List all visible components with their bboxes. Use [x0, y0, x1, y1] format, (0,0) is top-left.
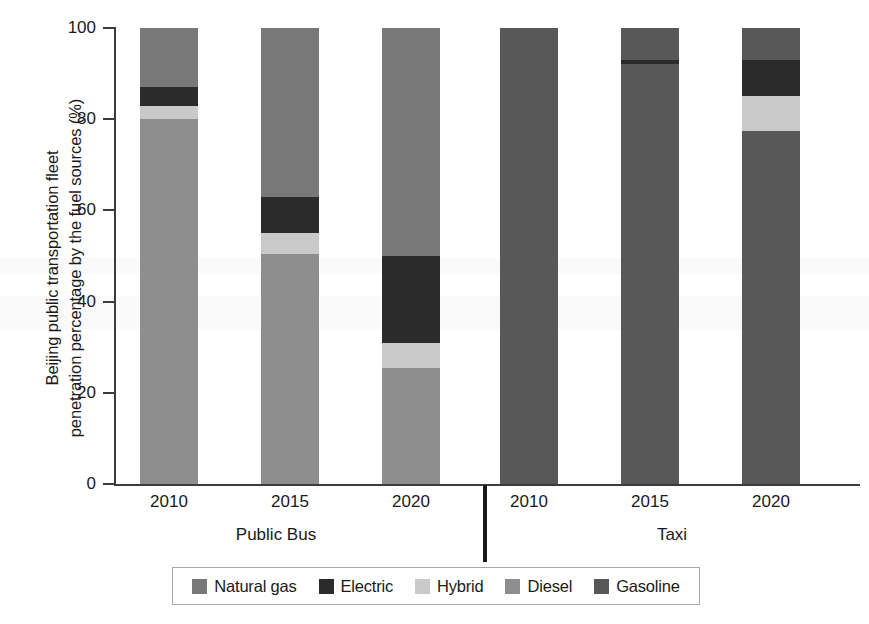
bar-segment-electric — [140, 87, 198, 105]
x-axis-line — [114, 484, 860, 486]
legend: Natural gasElectricHybridDieselGasoline — [172, 567, 700, 605]
y-axis-tick — [103, 392, 114, 394]
plot-area — [114, 28, 859, 484]
bar-segment-gasoline — [621, 28, 679, 484]
legend-label: Hybrid — [437, 577, 483, 596]
y-axis-tick — [103, 27, 114, 29]
group-label-taxi: Taxi — [562, 525, 782, 545]
y-axis-tick-label: 80 — [36, 109, 96, 129]
y-axis-tick — [103, 118, 114, 120]
bar-segment-diesel — [140, 119, 198, 484]
legend-item-natural-gas[interactable]: Natural gas — [192, 577, 296, 596]
y-axis-tick-label: 100 — [36, 18, 96, 38]
bar-segment-diesel — [382, 368, 440, 484]
y-axis-tick-label: 60 — [36, 200, 96, 220]
bar-segment-natural-gas — [261, 28, 319, 197]
bar-segment-electric — [742, 60, 800, 96]
legend-label: Gasoline — [616, 577, 680, 596]
stacked-bar-chart: Beijing public transportation fleet pene… — [0, 0, 869, 624]
legend-swatch-icon — [192, 579, 207, 594]
bar-taxi-2010 — [500, 28, 558, 484]
bar-segment-electric — [382, 256, 440, 343]
bar-public-bus-2020 — [382, 28, 440, 484]
y-axis-tick-label: 40 — [36, 292, 96, 312]
legend-item-hybrid[interactable]: Hybrid — [415, 577, 483, 596]
bar-segment-hybrid — [742, 96, 800, 130]
x-axis-label: 2020 — [711, 492, 831, 512]
y-axis-tick — [103, 301, 114, 303]
bar-segment-gasoline — [742, 28, 800, 60]
x-axis-label: 2010 — [109, 492, 229, 512]
x-axis-label: 2015 — [590, 492, 710, 512]
y-axis-title: Beijing public transportation fleet pene… — [41, 33, 87, 503]
bar-segment-diesel — [261, 254, 319, 484]
legend-swatch-icon — [505, 579, 520, 594]
legend-item-diesel[interactable]: Diesel — [505, 577, 572, 596]
legend-label: Diesel — [527, 577, 572, 596]
bar-segment-hybrid — [382, 343, 440, 368]
x-axis-label: 2010 — [469, 492, 589, 512]
y-axis-tick-label: 20 — [36, 383, 96, 403]
legend-label: Electric — [341, 577, 394, 596]
bar-public-bus-2010 — [140, 28, 198, 484]
legend-swatch-icon — [415, 579, 430, 594]
group-divider — [483, 485, 487, 562]
bar-segment-electric — [621, 60, 679, 65]
bar-segment-gasoline — [500, 28, 558, 484]
bar-segment-hybrid — [261, 233, 319, 254]
x-axis-label: 2015 — [230, 492, 350, 512]
bar-taxi-2015 — [621, 28, 679, 484]
bar-taxi-2020 — [742, 28, 800, 484]
group-label-public-bus: Public Bus — [166, 525, 386, 545]
bar-segment-electric — [261, 197, 319, 233]
legend-item-electric[interactable]: Electric — [319, 577, 394, 596]
bar-public-bus-2015 — [261, 28, 319, 484]
bar-segment-natural-gas — [382, 28, 440, 256]
legend-label: Natural gas — [214, 577, 296, 596]
y-axis-tick-label: 0 — [36, 474, 96, 494]
y-axis-tick — [103, 209, 114, 211]
bar-segment-gasoline — [742, 131, 800, 484]
y-axis-tick — [103, 483, 114, 485]
bar-segment-hybrid — [140, 106, 198, 120]
legend-item-gasoline[interactable]: Gasoline — [594, 577, 680, 596]
legend-swatch-icon — [319, 579, 334, 594]
x-axis-label: 2020 — [351, 492, 471, 512]
legend-swatch-icon — [594, 579, 609, 594]
